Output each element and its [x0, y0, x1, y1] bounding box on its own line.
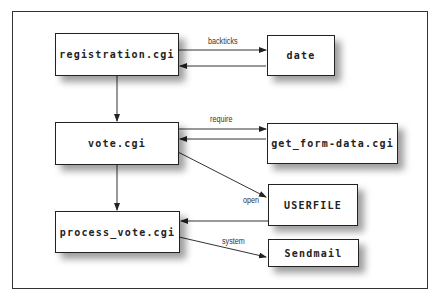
node-label: process_vote.cgi [60, 227, 176, 238]
node-sendmail: Sendmail [268, 239, 359, 267]
node-label: vote.cgi [88, 138, 146, 149]
node-userfile: USERFILE [268, 184, 358, 226]
edge-label-system: system [222, 236, 245, 246]
edge-vote-to-userfile [178, 152, 266, 197]
edge-label-open: open [243, 195, 259, 205]
node-get-form-data-cgi: get_form-data.cgi [267, 123, 398, 164]
node-process-vote-cgi: process_vote.cgi [55, 211, 180, 253]
node-vote-cgi: vote.cgi [55, 122, 179, 165]
node-registration-cgi: registration.cgi [55, 33, 179, 76]
node-label: date [287, 50, 316, 61]
node-date: date [267, 35, 335, 76]
node-label: get_form-data.cgi [271, 138, 394, 149]
node-label: Sendmail [285, 248, 343, 259]
edge-label-require: require [210, 114, 232, 124]
node-label: USERFILE [284, 200, 342, 211]
node-label: registration.cgi [59, 49, 175, 60]
edge-label-backticks: backticks [208, 36, 238, 46]
